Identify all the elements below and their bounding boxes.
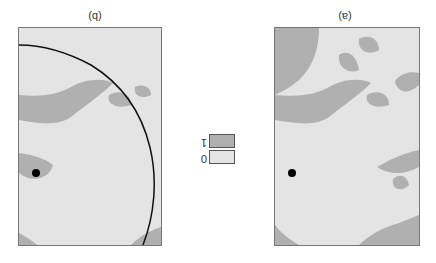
panel-b-label: (b) — [75, 11, 115, 23]
map-panel-a — [274, 27, 420, 246]
legend-swatch-1 — [209, 134, 235, 148]
map-b-land — [19, 28, 161, 245]
legend-label-0: 0 — [201, 153, 207, 165]
figure: (a) 1 0 (b) — [0, 0, 436, 263]
panel-a-label: (a) — [325, 11, 365, 23]
legend-label-1: 1 — [201, 137, 207, 149]
map-panel-b — [18, 27, 162, 246]
map-a-land — [275, 28, 419, 245]
legend-swatch-0 — [209, 150, 235, 164]
